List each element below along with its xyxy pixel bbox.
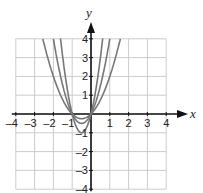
- tick-labels: –4–3–2–112344321–1–2–3–4: [6, 33, 170, 193]
- svg-text:4: 4: [163, 117, 169, 129]
- svg-text:–4: –4: [76, 183, 88, 193]
- svg-text:2: 2: [82, 70, 88, 82]
- y-axis-label: y: [84, 5, 92, 20]
- svg-text:3: 3: [144, 117, 150, 129]
- svg-text:4: 4: [82, 33, 88, 45]
- svg-text:–2: –2: [43, 117, 55, 129]
- parabola-graph: –4–3–2–112344321–1–2–3–4 x y: [0, 0, 203, 193]
- svg-text:–2: –2: [76, 146, 88, 158]
- svg-text:1: 1: [82, 89, 88, 101]
- svg-text:–3: –3: [76, 164, 88, 176]
- svg-text:–3: –3: [24, 117, 36, 129]
- svg-text:1: 1: [107, 117, 113, 129]
- axes: [12, 22, 188, 191]
- svg-text:–4: –4: [6, 117, 18, 129]
- svg-text:2: 2: [126, 117, 132, 129]
- svg-text:3: 3: [82, 52, 88, 64]
- svg-text:–1: –1: [62, 117, 74, 129]
- x-axis-label: x: [189, 106, 196, 121]
- svg-text:–1: –1: [76, 127, 88, 139]
